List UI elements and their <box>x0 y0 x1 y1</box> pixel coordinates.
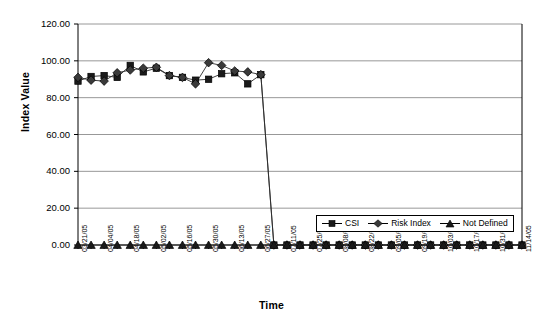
legend-label-csi: CSI <box>345 218 359 228</box>
plot-area <box>0 0 543 323</box>
diamond-marker-icon <box>368 219 388 228</box>
data-point-marker <box>245 81 251 87</box>
data-point-marker <box>218 71 224 77</box>
legend-item-csi: CSI <box>322 218 359 228</box>
legend-label-not-defined: Not Defined <box>463 218 508 228</box>
triangle-marker-icon <box>440 219 460 228</box>
data-point-marker <box>204 58 213 67</box>
legend-item-not-defined: Not Defined <box>440 218 508 228</box>
chart-container: Index Value Time 0.0020.0040.0060.0080.0… <box>0 0 543 323</box>
square-marker-icon <box>322 219 342 228</box>
data-point-marker <box>243 68 252 77</box>
chart-legend: CSI Risk Index Not Defined <box>316 215 514 232</box>
data-point-marker <box>205 76 211 82</box>
legend-label-risk-index: Risk Index <box>391 218 431 228</box>
legend-item-risk-index: Risk Index <box>368 218 431 228</box>
data-point-marker <box>217 61 226 70</box>
